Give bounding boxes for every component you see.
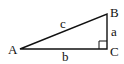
vertex-label-a: A [8,42,18,57]
side-label-c: c [60,16,66,31]
vertex-label-c: C [110,44,119,59]
vertex-label-b: B [110,5,119,20]
right-angle-marker [99,41,107,49]
right-triangle-diagram: A B C a b c [0,0,124,64]
side-label-a: a [111,24,117,39]
side-label-b: b [62,49,69,64]
